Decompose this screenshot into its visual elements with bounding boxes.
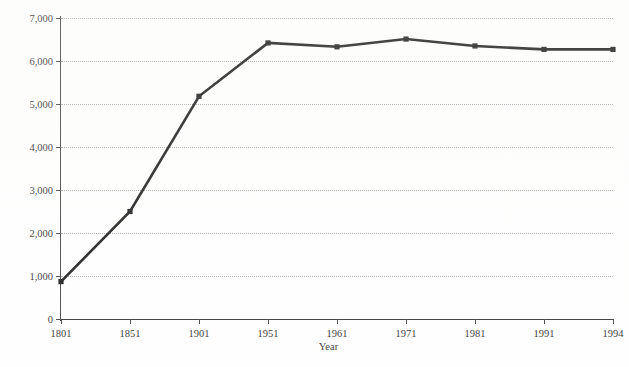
x-tick-label: 1961	[327, 328, 348, 339]
y-tick-label: 3,000	[29, 185, 53, 196]
x-tick-mark	[544, 319, 545, 324]
x-tick-label: 1994	[603, 328, 624, 339]
y-tick-label: 1,000	[29, 271, 53, 282]
x-tick-mark	[268, 319, 269, 324]
data-point-marker	[334, 44, 339, 49]
y-axis-title: Population ('000s)	[0, 0, 20, 367]
x-tick-mark	[130, 319, 131, 324]
x-tick-mark	[613, 319, 614, 324]
x-tick-label: 1991	[534, 328, 555, 339]
data-point-marker	[196, 94, 201, 99]
data-point-marker	[610, 47, 615, 52]
x-tick-label: 1971	[396, 328, 417, 339]
data-point-marker	[541, 47, 546, 52]
x-tick-mark	[406, 319, 407, 324]
data-point-marker	[403, 36, 408, 41]
x-tick-label: 1981	[465, 328, 486, 339]
data-point-marker	[265, 40, 270, 45]
y-tick-label: 7,000	[29, 13, 53, 24]
x-axis-title-text: Year	[319, 341, 338, 352]
population-markers	[58, 36, 615, 284]
data-point-marker	[58, 279, 63, 284]
x-tick-label: 1801	[51, 328, 72, 339]
x-tick-label: 1951	[258, 328, 279, 339]
y-tick-label: 0	[48, 314, 53, 325]
population-line	[61, 39, 613, 282]
x-tick-label: 1901	[189, 328, 210, 339]
y-tick-label: 4,000	[29, 142, 53, 153]
y-tick-label: 2,000	[29, 228, 53, 239]
x-axis-title: Year	[0, 341, 629, 352]
population-line-chart: Population ('000s) 01,0002,0003,0004,000…	[0, 0, 629, 367]
y-tick-label: 6,000	[29, 56, 53, 67]
x-tick-mark	[61, 319, 62, 324]
plot-area: 01,0002,0003,0004,0005,0006,0007,000 180…	[61, 18, 613, 319]
x-tick-mark	[199, 319, 200, 324]
x-tick-mark	[337, 319, 338, 324]
series-plot	[61, 18, 613, 319]
y-tick-label: 5,000	[29, 99, 53, 110]
data-point-marker	[472, 43, 477, 48]
data-point-marker	[127, 209, 132, 214]
x-tick-label: 1851	[120, 328, 141, 339]
x-tick-mark	[475, 319, 476, 324]
